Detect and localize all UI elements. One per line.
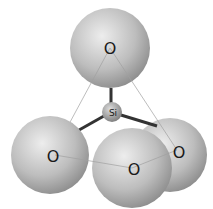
front-oxygen-label: O [128, 160, 141, 179]
left-oxygen-label: O [47, 147, 60, 166]
silicon-label: Si [109, 108, 117, 118]
tetrahedron-diagram: O Si O O O [0, 0, 213, 209]
top-oxygen-label: O [104, 39, 117, 58]
right-oxygen-label: O [173, 143, 186, 162]
